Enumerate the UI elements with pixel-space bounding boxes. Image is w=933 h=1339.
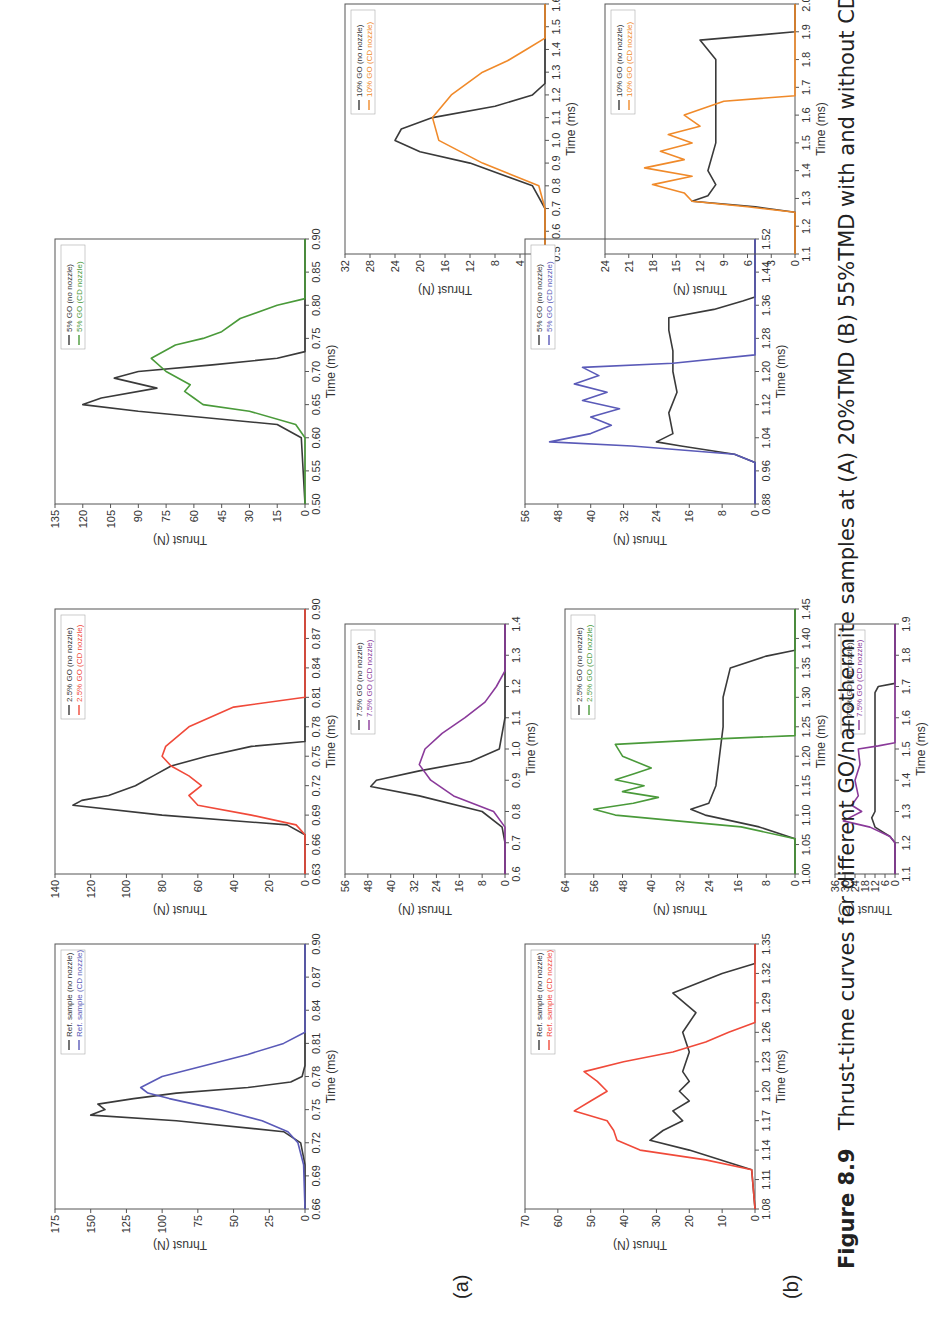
- svg-text:7.5% GO (CD nozzle): 7.5% GO (CD nozzle): [365, 639, 374, 717]
- svg-text:100: 100: [156, 1215, 168, 1233]
- svg-text:80: 80: [156, 880, 168, 892]
- svg-text:30: 30: [243, 510, 255, 522]
- svg-text:0.70: 0.70: [310, 361, 322, 382]
- svg-text:1.5: 1.5: [900, 741, 912, 756]
- caption-text: Thrust-time curves for different GO/nano…: [835, 0, 859, 1130]
- svg-text:0.96: 0.96: [760, 460, 772, 481]
- svg-text:48: 48: [362, 880, 374, 892]
- svg-text:0.8: 0.8: [510, 804, 522, 819]
- svg-text:Time (ms): Time (ms): [324, 715, 338, 769]
- svg-text:175: 175: [49, 1215, 61, 1233]
- svg-text:0.90: 0.90: [310, 933, 322, 954]
- svg-text:0.72: 0.72: [310, 1132, 322, 1153]
- svg-text:1.45: 1.45: [800, 598, 812, 619]
- svg-text:32: 32: [339, 260, 351, 272]
- svg-text:2.5% GO (CD nozzle): 2.5% GO (CD nozzle): [75, 624, 84, 702]
- svg-text:Time (ms): Time (ms): [914, 722, 928, 776]
- figure-number: Figure 8.9: [835, 1148, 859, 1269]
- svg-text:15: 15: [670, 260, 682, 272]
- svg-text:1.3: 1.3: [800, 191, 812, 206]
- svg-text:2.0: 2.0: [800, 0, 812, 12]
- svg-text:1.40: 1.40: [800, 628, 812, 649]
- svg-text:1.12: 1.12: [760, 394, 772, 415]
- svg-text:16: 16: [683, 510, 695, 522]
- svg-text:1.14: 1.14: [760, 1139, 772, 1160]
- svg-text:0.75: 0.75: [310, 328, 322, 349]
- svg-text:1.7: 1.7: [900, 679, 912, 694]
- svg-text:1.9: 1.9: [800, 24, 812, 39]
- svg-text:0.55: 0.55: [310, 460, 322, 481]
- svg-text:1.9: 1.9: [900, 616, 912, 631]
- svg-text:1.11: 1.11: [760, 1169, 772, 1190]
- svg-text:1.20: 1.20: [760, 361, 772, 382]
- svg-text:1.30: 1.30: [800, 687, 812, 708]
- svg-text:1.32: 1.32: [760, 963, 772, 984]
- svg-text:Thrust (N): Thrust (N): [613, 1238, 667, 1252]
- plot-area: 1.001.051.101.151.201.251.301.351.401.45…: [560, 594, 840, 919]
- svg-text:7.5% GO (no nozzle): 7.5% GO (no nozzle): [355, 642, 364, 717]
- svg-text:1.5: 1.5: [550, 19, 562, 34]
- svg-text:1.0: 1.0: [550, 133, 562, 148]
- svg-text:0.78: 0.78: [310, 716, 322, 737]
- svg-text:Thrust (N): Thrust (N): [153, 1238, 207, 1252]
- svg-text:125: 125: [120, 1215, 132, 1233]
- svg-text:120: 120: [77, 510, 89, 528]
- svg-text:5% GO (no nozzle): 5% GO (no nozzle): [535, 264, 544, 332]
- svg-text:1.35: 1.35: [760, 933, 772, 954]
- svg-text:12: 12: [464, 260, 476, 272]
- svg-text:32: 32: [618, 510, 630, 522]
- svg-text:0.81: 0.81: [310, 1033, 322, 1054]
- plot-area: 0.660.690.720.750.780.810.840.870.900255…: [50, 929, 350, 1254]
- svg-text:2.5% GO (no nozzle): 2.5% GO (no nozzle): [65, 627, 74, 702]
- svg-text:15: 15: [271, 510, 283, 522]
- svg-text:0: 0: [499, 880, 511, 886]
- chart-a2: 0.630.660.690.720.750.780.810.840.870.90…: [50, 594, 354, 919]
- svg-text:48: 48: [617, 880, 629, 892]
- svg-text:3: 3: [765, 260, 777, 266]
- svg-text:40: 40: [228, 880, 240, 892]
- svg-text:1.3: 1.3: [510, 648, 522, 663]
- svg-text:50: 50: [585, 1215, 597, 1227]
- svg-text:1.8: 1.8: [800, 52, 812, 67]
- svg-text:0.88: 0.88: [760, 493, 772, 514]
- svg-text:0: 0: [299, 1215, 311, 1221]
- plot-area: 0.630.660.690.720.750.780.810.840.870.90…: [50, 594, 350, 919]
- svg-text:0.9: 0.9: [510, 773, 522, 788]
- svg-text:10% GO (CD nozzle): 10% GO (CD nozzle): [625, 22, 634, 97]
- svg-text:8: 8: [760, 880, 772, 886]
- svg-text:60: 60: [552, 1215, 564, 1227]
- svg-text:32: 32: [408, 880, 420, 892]
- svg-text:1.28: 1.28: [760, 328, 772, 349]
- svg-text:100: 100: [120, 880, 132, 898]
- svg-text:24: 24: [650, 510, 662, 522]
- figure-caption: Figure 8.9Thrust-time curves for differe…: [835, 0, 859, 1269]
- svg-text:2.5% GO (CD nozzle): 2.5% GO (CD nozzle): [585, 624, 594, 702]
- svg-text:2.5% GO (no nozzle): 2.5% GO (no nozzle): [575, 627, 584, 702]
- svg-text:56: 56: [519, 510, 531, 522]
- svg-text:24: 24: [389, 260, 401, 272]
- svg-text:Time (ms): Time (ms): [814, 102, 828, 156]
- svg-text:70: 70: [519, 1215, 531, 1227]
- chart-a1: 0.660.690.720.750.780.810.840.870.900255…: [50, 929, 354, 1254]
- svg-text:20: 20: [263, 880, 275, 892]
- plot-area: 0.60.70.80.91.01.11.21.31.40816243240485…: [340, 609, 550, 919]
- svg-text:1.20: 1.20: [800, 746, 812, 767]
- svg-text:0.78: 0.78: [310, 1066, 322, 1087]
- svg-text:Thrust (N): Thrust (N): [153, 903, 207, 917]
- svg-text:1.6: 1.6: [550, 0, 562, 12]
- svg-text:1.4: 1.4: [510, 616, 522, 631]
- svg-text:1.5: 1.5: [800, 135, 812, 150]
- svg-text:5% GO (CD nozzle): 5% GO (CD nozzle): [545, 261, 554, 332]
- svg-text:1.4: 1.4: [800, 163, 812, 178]
- svg-text:0.60: 0.60: [310, 427, 322, 448]
- svg-text:0: 0: [789, 880, 801, 886]
- chart-b5: 1.11.21.31.41.51.61.71.81.92.00369121518…: [600, 0, 844, 299]
- svg-text:Time (ms): Time (ms): [524, 722, 538, 776]
- svg-text:0.75: 0.75: [310, 746, 322, 767]
- svg-text:0.85: 0.85: [310, 261, 322, 282]
- svg-text:1.00: 1.00: [800, 863, 812, 884]
- svg-text:1.4: 1.4: [550, 42, 562, 57]
- svg-text:0.81: 0.81: [310, 687, 322, 708]
- svg-text:1.05: 1.05: [800, 834, 812, 855]
